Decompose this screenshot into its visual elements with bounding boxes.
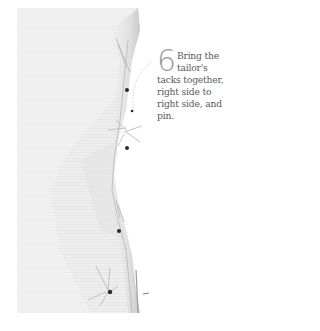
leader-arc [133, 62, 152, 112]
pin-head [125, 146, 129, 150]
pin-head [131, 110, 134, 113]
pin-head [125, 88, 129, 92]
pin-shaft [143, 293, 149, 294]
pin-head [117, 229, 121, 233]
step-number: 6 [157, 49, 176, 73]
pin-head [108, 290, 112, 294]
step-instruction: 6 Bring the tailor's tacks together, rig… [157, 50, 231, 122]
